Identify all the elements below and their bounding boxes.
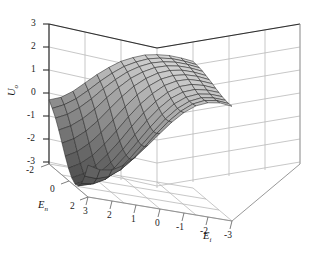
z-tick-1: 1 (31, 65, 36, 75)
x-tick-m3: -3 (224, 231, 232, 241)
z-tick-m2: -2 (27, 134, 35, 144)
x-tick-0: 0 (155, 219, 160, 229)
x-axis-title-sub: i (209, 236, 211, 244)
x-tick-3: 3 (83, 207, 88, 217)
x-tick-2: 2 (107, 211, 112, 221)
surface-plot-figure: 3 2 1 0 -1 -2 -3 Uo -2 0 2 En 3 2 1 0 -1… (0, 0, 325, 261)
z-axis-title: Uo (7, 85, 20, 96)
x-axis-title: Ei (203, 231, 211, 244)
z-tick-m1: -1 (27, 111, 35, 121)
x-tick-m1: -1 (176, 223, 184, 233)
surface-mesh (49, 55, 232, 186)
plot-canvas (0, 0, 325, 261)
y-tick-0: 0 (50, 185, 55, 195)
y-axis-title: En (38, 200, 48, 213)
y-tick-2: 2 (70, 202, 75, 212)
y-tick-m2: -2 (26, 166, 34, 176)
z-axis-title-sub: o (12, 85, 20, 89)
z-axis-ticks (43, 24, 49, 162)
z-tick-0: 0 (31, 88, 36, 98)
y-axis-title-sub: n (44, 205, 48, 213)
x-tick-1: 1 (131, 215, 136, 225)
z-axis-title-main: U (6, 89, 17, 97)
z-tick-3: 3 (31, 19, 36, 29)
z-tick-2: 2 (31, 42, 36, 52)
